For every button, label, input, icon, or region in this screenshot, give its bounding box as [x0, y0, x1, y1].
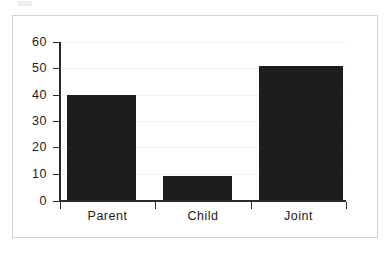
bar-joint[interactable] — [259, 66, 343, 200]
x-axis-line — [59, 200, 346, 202]
y-axis-label-50: 50 — [17, 62, 47, 75]
scan-artifact — [18, 1, 32, 6]
y-axis-label-0: 0 — [17, 195, 47, 208]
y-tick-30 — [53, 121, 60, 122]
y-axis-label-40: 40 — [17, 89, 47, 102]
gridline-60 — [61, 42, 346, 43]
x-axis-label-parent: Parent — [60, 210, 155, 223]
y-tick-50 — [53, 68, 60, 69]
y-axis-label-60: 60 — [17, 36, 47, 49]
y-tick-60 — [53, 42, 60, 43]
x-tick-2 — [251, 202, 252, 209]
y-tick-10 — [53, 174, 60, 175]
y-axis-label-20: 20 — [17, 141, 47, 154]
x-tick-1 — [155, 202, 156, 209]
x-axis-label-joint: Joint — [251, 210, 346, 223]
bar-parent[interactable] — [67, 95, 136, 200]
y-tick-40 — [53, 95, 60, 96]
chart-figure-frame: 60 50 40 30 20 10 0 Parent Child Joint — [12, 15, 378, 238]
x-tick-3 — [346, 202, 347, 209]
y-tick-20 — [53, 147, 60, 148]
y-tick-0 — [53, 201, 60, 202]
y-axis-line — [59, 42, 61, 202]
plot-area: 60 50 40 30 20 10 0 Parent Child Joint — [13, 16, 379, 239]
bar-child[interactable] — [163, 176, 232, 200]
x-tick-0 — [60, 202, 61, 209]
y-axis-label-30: 30 — [17, 115, 47, 128]
y-axis-label-10: 10 — [17, 168, 47, 181]
x-axis-label-child: Child — [155, 210, 251, 223]
